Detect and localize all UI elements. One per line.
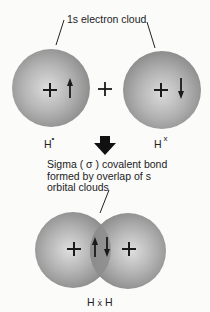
down-arrow-icon <box>94 136 116 155</box>
element-symbol: H <box>154 138 162 150</box>
electron-x: x <box>164 134 168 143</box>
element-symbol: H <box>44 138 52 150</box>
right-hydrogen-orbital <box>123 51 201 129</box>
molecule-label: H ẋ H <box>87 296 113 309</box>
caption-line-1: Sigma ( σ ) covalent bond <box>47 159 167 171</box>
element-symbol-left: H <box>87 296 95 308</box>
electron-cloud-label: 1s electron cloud <box>67 13 146 25</box>
left-atom-label: H• <box>44 135 54 150</box>
right-atom-label: Hx <box>154 135 168 150</box>
left-hydrogen-orbital <box>12 49 90 127</box>
electron-dot: • <box>52 134 55 143</box>
sigma-bond-diagram: 1s electron cloud H• Hx Sigma ( σ ) cova… <box>0 0 210 312</box>
plus-between-icon <box>98 82 112 96</box>
h2-molecule-orbital <box>35 212 166 289</box>
element-symbol-right: H <box>105 296 113 308</box>
diagram-graphics <box>0 0 210 312</box>
shared-electron-pair: ẋ <box>98 298 103 308</box>
sigma-bond-caption: Sigma ( σ ) covalent bond formed by over… <box>47 159 167 194</box>
caption-line-3: orbital clouds <box>47 182 167 194</box>
leader-line-right <box>147 22 155 48</box>
leader-line-left <box>56 20 64 45</box>
